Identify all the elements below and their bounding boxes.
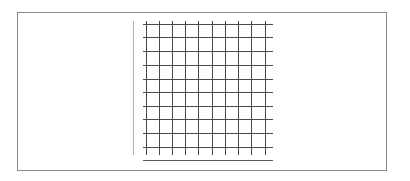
grid-plot	[0, 0, 410, 181]
vertical-grid-lines	[147, 21, 266, 155]
horizontal-grid-lines	[143, 25, 273, 148]
